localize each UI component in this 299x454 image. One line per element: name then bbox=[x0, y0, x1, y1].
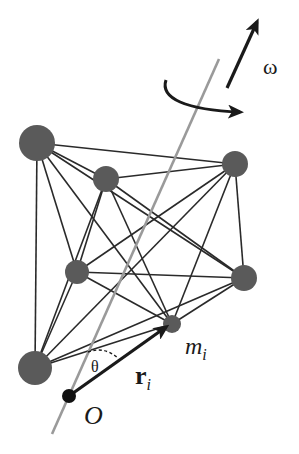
radius-label-main: r bbox=[135, 361, 147, 390]
point-mass-G bbox=[18, 351, 52, 385]
point-mass-C bbox=[222, 151, 248, 177]
bond-C-G bbox=[35, 164, 235, 368]
bond-C-E bbox=[235, 164, 244, 278]
mass-label-subscript: i bbox=[202, 346, 206, 363]
rigid-body-diagram: ω mi ri θ O bbox=[0, 0, 299, 454]
bond-C-F bbox=[172, 164, 235, 324]
bond-B-D bbox=[77, 179, 106, 272]
origin-point bbox=[62, 389, 76, 403]
bond-A-E bbox=[37, 143, 244, 278]
point-mass-A bbox=[19, 125, 55, 161]
bond-E-G bbox=[35, 278, 244, 368]
mass-label-main: m bbox=[185, 333, 202, 359]
radius-vector-label: ri bbox=[135, 361, 151, 393]
bond-lines bbox=[35, 143, 244, 368]
bond-A-D bbox=[37, 143, 77, 272]
theta-label: θ bbox=[91, 358, 99, 375]
bond-A-G bbox=[35, 143, 37, 368]
point-mass-D bbox=[65, 260, 89, 284]
theta-angle-arc bbox=[88, 350, 118, 358]
bond-D-F bbox=[77, 272, 172, 324]
angular-velocity-arrow bbox=[227, 22, 257, 88]
mass-label: mi bbox=[185, 333, 207, 363]
diagram-canvas: ω mi ri θ O bbox=[0, 0, 299, 454]
point-mass-E bbox=[231, 265, 257, 291]
bond-A-C bbox=[37, 143, 235, 164]
point-mass-B bbox=[93, 166, 119, 192]
bond-D-E bbox=[77, 272, 244, 278]
omega-label: ω bbox=[263, 54, 277, 79]
point-mass-F bbox=[163, 315, 181, 333]
bond-B-F bbox=[106, 179, 172, 324]
origin-label: O bbox=[84, 401, 103, 430]
radius-label-subscript: i bbox=[147, 376, 151, 393]
